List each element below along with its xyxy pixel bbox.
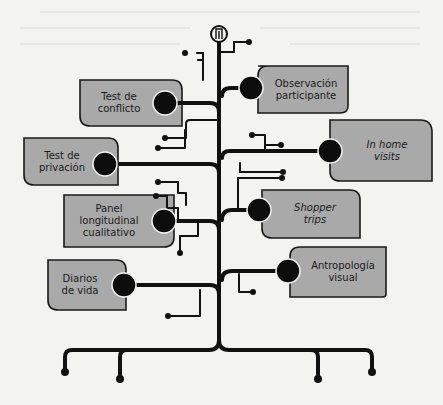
label-antropologia-visual: Antropologíavisual bbox=[302, 249, 384, 295]
label-shopper-trips: Shoppertrips bbox=[272, 192, 358, 236]
node-observacion bbox=[239, 76, 263, 100]
trunk-badge-icon bbox=[211, 26, 227, 42]
node-in-home bbox=[318, 139, 342, 163]
label-test-privacion: Test deprivación bbox=[26, 140, 98, 184]
node-diarios bbox=[112, 273, 136, 297]
node-test-conflicto bbox=[153, 91, 177, 115]
label-in-home-visits: In homevisits bbox=[344, 122, 430, 180]
node-antropologia bbox=[276, 259, 300, 283]
label-observacion-participante: Observaciónparticipante bbox=[266, 68, 346, 112]
node-shopper bbox=[247, 198, 271, 222]
label-panel-longitudinal: Panellongitudinalcualitativo bbox=[64, 197, 154, 245]
node-panel bbox=[152, 209, 176, 233]
label-diarios-vida: Diariosde vida bbox=[50, 262, 110, 308]
label-test-conflicto: Test deconflicto bbox=[82, 82, 156, 124]
